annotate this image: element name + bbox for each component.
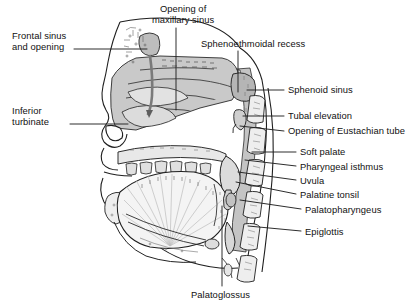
- label-palatopharyngeus: Palatopharyngeus: [305, 204, 381, 215]
- label-pharyngeal-isthmus: Pharyngeal isthmus: [300, 161, 383, 172]
- label-opening-maxillary-sinus: Opening of maxillary sinus: [152, 3, 214, 25]
- label-sphenoid-sinus: Sphenoid sinus: [288, 84, 353, 95]
- label-epiglottis: Epiglottis: [305, 226, 344, 237]
- leader-palatine-tonsil: [236, 182, 296, 194]
- label-palatine-tonsil: Palatine tonsil: [300, 189, 359, 200]
- anatomy-figure: Frontal sinus and opening Inferior turbi…: [0, 0, 420, 307]
- label-inferior-turbinate: Inferior turbinate: [12, 105, 49, 127]
- leader-palatopharyngeus: [240, 200, 301, 209]
- leader-uvula: [238, 172, 296, 180]
- label-sphenoethmoidal-recess: Sphenoethmoidal recess: [201, 38, 305, 49]
- leader-pharyngeal-isthmus: [245, 160, 296, 166]
- leader-opening-eustachian-tube: [240, 126, 284, 131]
- label-palatoglossus: Palatoglossus: [191, 289, 250, 300]
- label-tubal-elevation: Tubal elevation: [288, 110, 352, 121]
- label-soft-palate: Soft palate: [300, 146, 345, 157]
- label-opening-eustachian-tube: Opening of Eustachian tube: [288, 125, 405, 136]
- label-uvula: Uvula: [300, 175, 324, 186]
- leader-epiglottis: [248, 226, 301, 231]
- label-frontal-sinus: Frontal sinus and opening: [12, 30, 66, 52]
